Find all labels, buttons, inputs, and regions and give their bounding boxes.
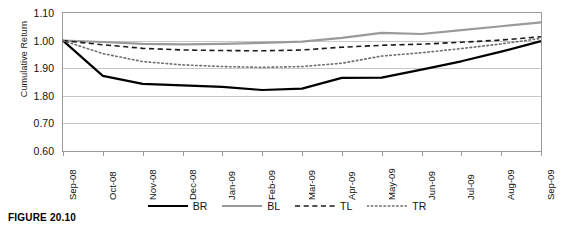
legend-label: TR bbox=[412, 200, 426, 212]
x-tick-label: Mar-09 bbox=[306, 170, 317, 200]
legend-item-tr[interactable]: TR bbox=[367, 200, 426, 212]
y-axis-tick-labels: 1.101.001.901.800.700.60 bbox=[0, 0, 58, 160]
chart-legend: BRBLTLTR bbox=[0, 197, 574, 215]
x-tick-mark bbox=[302, 152, 303, 156]
x-tick-label: Sep-08 bbox=[67, 169, 78, 200]
y-tick-label: 1.90 bbox=[34, 62, 54, 74]
y-tick-label: 1.80 bbox=[34, 90, 54, 102]
legend-label: BR bbox=[193, 200, 208, 212]
x-tick-label: Dec-08 bbox=[187, 169, 198, 200]
x-tick-mark bbox=[143, 152, 144, 156]
x-tick-mark bbox=[461, 152, 462, 156]
figure-caption: FIGURE 20.10 bbox=[8, 212, 76, 223]
legend-item-br[interactable]: BR bbox=[148, 200, 208, 212]
x-tick-mark bbox=[222, 152, 223, 156]
legend-swatch-tr bbox=[367, 201, 407, 211]
x-tick-mark bbox=[103, 152, 104, 156]
x-tick-label: Aug-09 bbox=[505, 169, 516, 200]
legend-label: BL bbox=[267, 200, 280, 212]
figure-container: Cumulative Return 1.101.001.901.800.700.… bbox=[0, 0, 574, 230]
x-tick-mark bbox=[382, 152, 383, 156]
x-tick-label: Apr-09 bbox=[346, 171, 357, 200]
y-tick-label: 1.10 bbox=[34, 7, 54, 19]
x-tick-mark bbox=[63, 152, 64, 156]
legend-item-tl[interactable]: TL bbox=[295, 200, 352, 212]
x-tick-mark bbox=[541, 152, 542, 156]
plot-area bbox=[62, 12, 542, 152]
x-tick-mark bbox=[501, 152, 502, 156]
x-tick-mark bbox=[262, 152, 263, 156]
x-tick-label: Nov-08 bbox=[147, 169, 158, 200]
y-tick-label: 0.60 bbox=[34, 145, 54, 157]
legend-item-bl[interactable]: BL bbox=[222, 200, 280, 212]
series-lines bbox=[63, 13, 541, 151]
y-tick-label: 0.70 bbox=[34, 117, 54, 129]
x-tick-mark bbox=[422, 152, 423, 156]
legend-swatch-tl bbox=[295, 201, 335, 211]
x-tick-label: Feb-09 bbox=[266, 170, 277, 200]
y-tick-label: 1.00 bbox=[34, 35, 54, 47]
legend-label: TL bbox=[340, 200, 352, 212]
x-tick-label: Jan-09 bbox=[226, 171, 237, 200]
x-tick-label: Jun-09 bbox=[426, 171, 437, 200]
x-tick-label: Sep-09 bbox=[545, 169, 556, 200]
x-tick-label: Oct-08 bbox=[107, 171, 118, 200]
x-tick-mark bbox=[342, 152, 343, 156]
x-tick-mark bbox=[183, 152, 184, 156]
legend-swatch-br bbox=[148, 201, 188, 211]
legend-swatch-bl bbox=[222, 201, 262, 211]
x-tick-label: May-09 bbox=[386, 168, 397, 200]
